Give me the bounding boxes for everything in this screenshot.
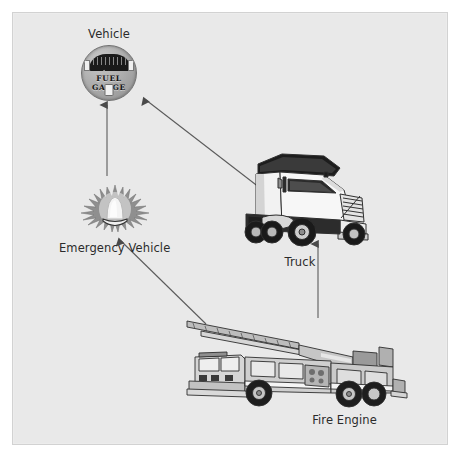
node-emergency-vehicle[interactable]: Emergency Vehicle [59,183,170,255]
semi-truck-icon [228,146,372,251]
node-fire-engine-label-wrap: Fire Engine [181,409,416,428]
gauge-dial [89,54,131,71]
gauge-tab-right [128,60,134,71]
node-truck[interactable]: Truck [228,146,372,269]
diagram-frame: Vehicle FUEL GAUGE [12,12,448,445]
node-fire-engine[interactable]: Fire Engine [181,309,416,428]
fuel-gauge-icon: FUEL GAUGE [81,45,137,101]
gauge-tab-left [84,60,90,71]
emergency-beacon-light-icon [74,183,156,238]
node-fire-engine-label: Fire Engine [312,413,377,427]
ladder-fire-truck-icon [181,309,416,409]
node-vehicle-label: Vehicle [88,27,130,41]
gauge-ticks [93,57,127,65]
node-vehicle[interactable]: Vehicle FUEL GAUGE [81,27,137,101]
node-truck-label: Truck [285,255,316,269]
diagram-canvas: Vehicle FUEL GAUGE [0,0,468,460]
node-emergency-vehicle-label: Emergency Vehicle [59,241,170,255]
gauge-button [105,84,114,96]
